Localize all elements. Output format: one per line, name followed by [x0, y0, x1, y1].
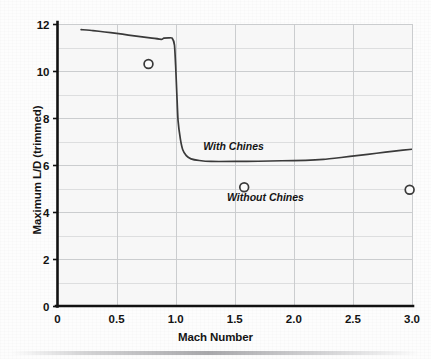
line-chart-plot: 024681012 00.51.01.52.02.53.0 With Chine… [0, 0, 431, 359]
svg-text:8: 8 [43, 113, 50, 125]
svg-text:3.0: 3.0 [404, 313, 420, 325]
svg-text:2.0: 2.0 [286, 313, 302, 325]
svg-text:0: 0 [54, 313, 60, 325]
svg-text:0: 0 [43, 301, 49, 313]
chart-figure: 024681012 00.51.01.52.02.53.0 With Chine… [0, 0, 431, 359]
svg-text:With Chines: With Chines [203, 140, 264, 152]
svg-text:1.5: 1.5 [227, 313, 244, 325]
svg-text:4: 4 [43, 207, 50, 219]
x-axis-tick-labels: 00.51.01.52.02.53.0 [54, 313, 420, 325]
x-axis-title: Mach Number [0, 331, 431, 343]
svg-text:6: 6 [43, 160, 49, 172]
svg-text:2.5: 2.5 [345, 313, 362, 325]
svg-text:12: 12 [37, 19, 50, 31]
svg-text:Without Chines: Without Chines [227, 191, 304, 203]
svg-text:0.5: 0.5 [109, 313, 126, 325]
y-axis-title: Maximum L/D (trimmed) [31, 55, 43, 285]
svg-text:1.0: 1.0 [168, 313, 184, 325]
svg-text:2: 2 [43, 254, 49, 266]
